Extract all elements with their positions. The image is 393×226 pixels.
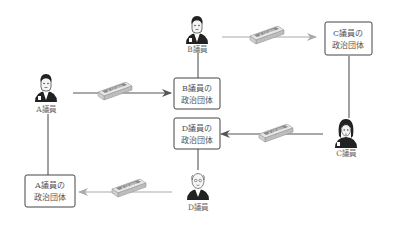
group-box-a-line2: 政治団体 bbox=[34, 192, 66, 202]
group-box-d: D議員の 政治団体 bbox=[174, 118, 220, 149]
person-b: B議員 bbox=[186, 16, 208, 54]
person-d: D議員 bbox=[187, 174, 209, 213]
person-c: C議員 bbox=[335, 119, 357, 158]
person-d-label: D議員 bbox=[188, 202, 209, 212]
money-bundle-icon bbox=[259, 124, 293, 142]
person-b-label: B議員 bbox=[187, 44, 208, 54]
person-a: A議員 bbox=[35, 74, 57, 114]
politician-d-icon bbox=[187, 174, 209, 201]
money-bundle-icon bbox=[112, 179, 146, 197]
politician-c-icon bbox=[335, 119, 357, 148]
group-box-d-line1: D議員の bbox=[182, 123, 212, 133]
group-box-b-line2: 政治団体 bbox=[181, 95, 213, 105]
group-box-b: B議員の 政治団体 bbox=[174, 78, 220, 109]
group-box-a-line1: A議員の bbox=[34, 180, 65, 190]
money-bundle-icon bbox=[98, 82, 132, 100]
group-box-c: C議員の 政治団体 bbox=[325, 22, 372, 55]
money-flow-diagram: ¥ 10,000 bbox=[0, 0, 393, 226]
group-box-d-line2: 政治団体 bbox=[181, 135, 213, 145]
group-box-c-line1: C議員の bbox=[333, 28, 363, 38]
group-box-c-line2: 政治団体 bbox=[332, 40, 364, 50]
politician-b-icon bbox=[186, 16, 208, 44]
person-a-label: A議員 bbox=[35, 104, 56, 114]
group-box-a: A議員の 政治団体 bbox=[25, 175, 75, 207]
group-box-b-line1: B議員の bbox=[182, 83, 212, 93]
person-c-label: C議員 bbox=[336, 148, 357, 158]
politician-a-icon bbox=[35, 74, 57, 102]
money-bundle-icon bbox=[250, 26, 284, 44]
